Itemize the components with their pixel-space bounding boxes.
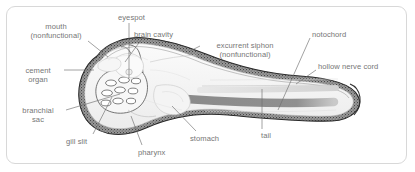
label-excurrent-siphon: excurrent siphon (nonfunctional) [203,41,287,59]
label-excurrent-siphon-line1: excurrent siphon [203,41,287,50]
gill-slit-group [101,77,141,106]
label-branchial-sac-line1: branchial [12,106,64,115]
gill-slit [106,80,117,86]
figure-canvas: mouth (nonfunctional) cement organ branc… [0,0,415,172]
hollow-nerve-cord [200,88,336,90]
label-branchial-sac: branchial sac [12,106,64,124]
notochord [186,99,334,103]
label-tail: tail [261,131,271,140]
label-mouth-line1: mouth [18,22,94,31]
gill-slit [126,98,135,104]
label-eyespot: eyespot [118,13,145,22]
label-gill-slit: gill slit [66,137,87,146]
label-cement-organ-line2: organ [14,75,62,84]
label-excurrent-siphon-line2: (nonfunctional) [203,50,287,59]
gill-slit [101,100,111,106]
label-pharynx: pharynx [138,148,165,157]
label-cement-organ-line1: cement [14,66,62,75]
gill-slit [131,78,140,84]
label-notochord: notochord [312,30,346,39]
label-mouth-line2: (nonfunctional) [18,31,94,40]
gill-slit [113,98,123,104]
label-mouth: mouth (nonfunctional) [18,22,94,40]
label-branchial-sac-line2: sac [12,115,64,124]
label-hollow-nerve-cord: hollow nerve cord [318,62,378,71]
label-cement-organ: cement organ [14,66,62,84]
gill-slit [128,88,138,94]
gill-slit [102,90,113,96]
label-stomach: stomach [190,134,219,143]
gill-slit [115,87,126,93]
label-brain-cavity: brain cavity [134,30,173,39]
